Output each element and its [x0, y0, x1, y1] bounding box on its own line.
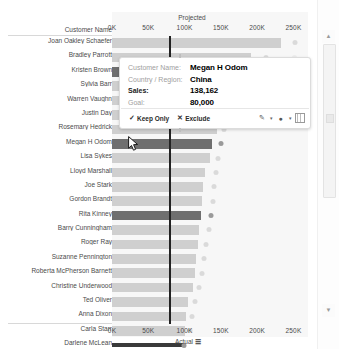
bottom-axis-title[interactable]: Actual☰	[175, 338, 201, 346]
bar-row[interactable]: Lisa Sykes	[0, 151, 318, 165]
bar-row[interactable]: Suzanne Pennington	[0, 252, 318, 266]
tooltip-fields: Customer Name:Megan H OdomCountry / Regi…	[128, 63, 247, 109]
tooltip[interactable]: Customer Name:Megan H OdomCountry / Regi…	[119, 57, 311, 129]
tooltip-icon-group: ✎ ▾ ● ▾	[256, 112, 310, 124]
axis-tick-label: 0K	[108, 327, 116, 334]
bar-row-label[interactable]: Gordon Brandt	[0, 195, 112, 202]
bar-track	[112, 295, 308, 309]
chevron-down-icon: ▼	[326, 307, 332, 313]
sort-descending-icon[interactable]: ☰	[195, 338, 201, 346]
bar-row[interactable]: Roberta McPherson Barnett	[0, 266, 318, 280]
projected-marker-dot[interactable]	[212, 184, 217, 189]
projected-marker-dot[interactable]	[204, 242, 209, 247]
bar[interactable]	[112, 182, 203, 192]
projected-marker-dot[interactable]	[213, 170, 218, 175]
bar-row[interactable]: Ted Oliver	[0, 295, 318, 309]
bar[interactable]	[112, 211, 201, 221]
bar-row-label[interactable]: Anna Dixon	[0, 310, 112, 317]
bar-row[interactable]: Joe Stark	[0, 180, 318, 194]
bar-row-label[interactable]: Christine Underwood	[0, 282, 112, 289]
bar-row-label[interactable]: Ted Oliver	[0, 296, 112, 303]
check-icon: ✓	[129, 114, 135, 122]
projected-marker-dot[interactable]	[207, 227, 212, 232]
bar-row-label[interactable]: Joe Stark	[0, 181, 112, 188]
axis-tick-label: 200K	[249, 24, 265, 31]
axis-tick-label: 150K	[213, 24, 229, 31]
scroll-up-button[interactable]: ▲	[322, 30, 335, 43]
bar-row[interactable]: Joan Oakley Schaefer	[0, 36, 318, 50]
bar-row-label[interactable]: Kristen Brown	[0, 66, 112, 73]
bar-row-label[interactable]: Carla Starr	[0, 325, 112, 332]
bar-row-label[interactable]: Suzanne Pennington	[0, 253, 112, 260]
scroll-down-button[interactable]: ▼	[322, 304, 335, 317]
projected-marker-dot[interactable]	[197, 285, 202, 290]
bar-track	[112, 36, 308, 50]
bar-row-label[interactable]: Lisa Sykes	[0, 152, 112, 159]
bar-row[interactable]: Rita Kinney	[0, 209, 318, 223]
projected-marker-dot[interactable]	[218, 141, 223, 146]
bar[interactable]	[112, 196, 202, 206]
bar[interactable]	[112, 168, 205, 178]
exclude-button[interactable]: ✕ Exclude	[173, 114, 214, 122]
bar-row[interactable]: Darlene McLean	[0, 338, 318, 349]
projected-marker-dot[interactable]	[210, 199, 215, 204]
bar[interactable]	[112, 38, 281, 48]
tooltip-field-value: Megan H Odom	[190, 63, 247, 72]
chevron-down-icon[interactable]: ▾	[268, 115, 274, 121]
bar-row-label[interactable]: Lloyd Marshall	[0, 167, 112, 174]
bar[interactable]	[112, 254, 196, 264]
axis-tick-label: 100K	[177, 327, 193, 334]
bar[interactable]	[112, 268, 195, 278]
group-members-icon[interactable]: ●	[275, 112, 286, 124]
bar-row-label[interactable]: Roberta McPherson Barnett	[0, 267, 112, 274]
bar-row-label[interactable]: Warren Vaughn	[0, 95, 112, 102]
bar[interactable]	[112, 343, 183, 347]
keep-only-button[interactable]: ✓ Keep Only	[125, 114, 173, 122]
projected-marker-dot[interactable]	[209, 213, 214, 218]
bar-row-label[interactable]: Sylvia Barr	[0, 80, 112, 87]
projected-marker-dot[interactable]	[200, 271, 205, 276]
projected-marker-dot[interactable]	[215, 156, 220, 161]
bar-row[interactable]: Christine Underwood	[0, 281, 318, 295]
view-data-grid-icon[interactable]	[294, 112, 305, 124]
projected-marker-dot[interactable]	[292, 40, 297, 45]
bar-row[interactable]: Gordon Brandt	[0, 194, 318, 208]
highlight-pencil-icon[interactable]: ✎	[256, 112, 267, 124]
bar-row[interactable]: Roger Ray	[0, 237, 318, 251]
vertical-scrollbar[interactable]: ▲ ▼	[317, 0, 339, 349]
bar[interactable]	[112, 153, 210, 163]
bar-row-label[interactable]: Roger Ray	[0, 238, 112, 245]
bar-row-label[interactable]: Justin Day	[0, 109, 112, 116]
y-axis-field-label[interactable]: Customer Name	[0, 26, 112, 33]
bar-row[interactable]: Megan H Odom	[0, 137, 318, 151]
bar-row[interactable]: Lloyd Marshall	[0, 166, 318, 180]
bar-track	[112, 237, 308, 251]
chevron-down-icon[interactable]: ▾	[287, 115, 293, 121]
bar-track	[112, 209, 308, 223]
bar[interactable]	[112, 297, 188, 307]
bar[interactable]	[112, 312, 186, 322]
tooltip-notch-bottom	[179, 128, 181, 132]
bar-track	[112, 137, 308, 151]
bar[interactable]	[112, 283, 193, 293]
bar-row-label[interactable]: Rosemary Hedrick	[0, 123, 112, 130]
projected-marker-dot[interactable]	[202, 256, 207, 261]
bar[interactable]	[112, 240, 198, 250]
bar-row[interactable]: Anna Dixon	[0, 309, 318, 323]
projected-marker-dot[interactable]	[189, 314, 194, 319]
bar-row-label[interactable]: Rita Kinney	[0, 210, 112, 217]
mouse-pointer-icon	[128, 136, 139, 151]
bar-row-label[interactable]: Darlene McLean	[0, 339, 112, 346]
projected-marker-dot[interactable]	[192, 299, 197, 304]
bar-track	[112, 166, 308, 180]
scrollbar-thumb[interactable]	[323, 44, 336, 198]
bar[interactable]	[112, 225, 199, 235]
bar-row-label[interactable]: Megan H Odom	[0, 138, 112, 145]
bar-chart-visualization[interactable]: Projected 0K50K100K150K200K250K Customer…	[0, 0, 318, 349]
bar-row-label[interactable]: Barry Cunningham	[0, 224, 112, 231]
bar-track	[112, 281, 308, 295]
bar-row[interactable]: Barry Cunningham	[0, 223, 318, 237]
bar-row-label[interactable]: Bradley Parrott	[0, 51, 112, 58]
bar-row-label[interactable]: Joan Oakley Schaefer	[0, 37, 112, 44]
top-axis-title: Projected	[178, 14, 205, 21]
